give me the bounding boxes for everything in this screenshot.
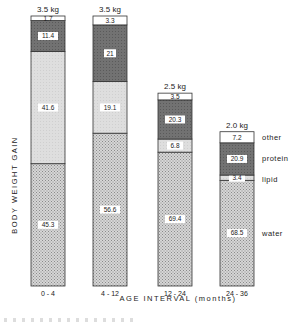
value-label-lipid: 19.1 (104, 104, 117, 111)
total-label: 2.5 kg (164, 82, 186, 91)
value-label-protein: 20.9 (231, 155, 244, 162)
value-label-protein: 20.3 (169, 116, 182, 123)
value-label-water: 56.6 (104, 206, 117, 213)
total-label: 3.5 kg (99, 5, 121, 14)
legend: other protein lipid water (261, 133, 288, 238)
bars-group: 45.341.611.41.756.619.1213.369.46.820.33… (31, 15, 254, 286)
total-label: 3.5 kg (37, 5, 59, 14)
value-label-other: 1.7 (43, 15, 52, 22)
value-label-water: 69.4 (169, 215, 182, 222)
value-label-protein: 21 (106, 50, 114, 57)
totals-group: 3.5 kg3.5 kg2.5 kg2.0 kg (37, 5, 248, 130)
x-tick-label: 0 - 4 (41, 290, 55, 297)
total-label: 2.0 kg (226, 121, 248, 130)
value-label-other: 3.3 (105, 17, 114, 24)
stacked-bar-chart: 45.341.611.41.756.619.1213.369.46.820.33… (0, 0, 300, 327)
x-axis-label: AGE INTERVAL (months) (120, 294, 237, 303)
value-label-lipid: 41.6 (42, 104, 55, 111)
value-label-protein: 11.4 (42, 32, 55, 39)
cropped-caption-remnant (4, 318, 134, 322)
y-axis-label: BODY WEIGHT GAIN (10, 136, 19, 233)
legend-protein: protein (262, 154, 288, 163)
legend-lipid: lipid (262, 175, 278, 184)
legend-other: other (262, 133, 282, 142)
value-label-other: 3.5 (170, 93, 179, 100)
value-label-lipid: 6.8 (170, 142, 179, 149)
value-label-water: 45.3 (42, 221, 55, 228)
value-label-water: 68.5 (231, 229, 244, 236)
x-tick-label: 4 - 12 (101, 290, 119, 297)
legend-water: water (261, 229, 283, 238)
value-label-other: 7.2 (232, 134, 241, 141)
